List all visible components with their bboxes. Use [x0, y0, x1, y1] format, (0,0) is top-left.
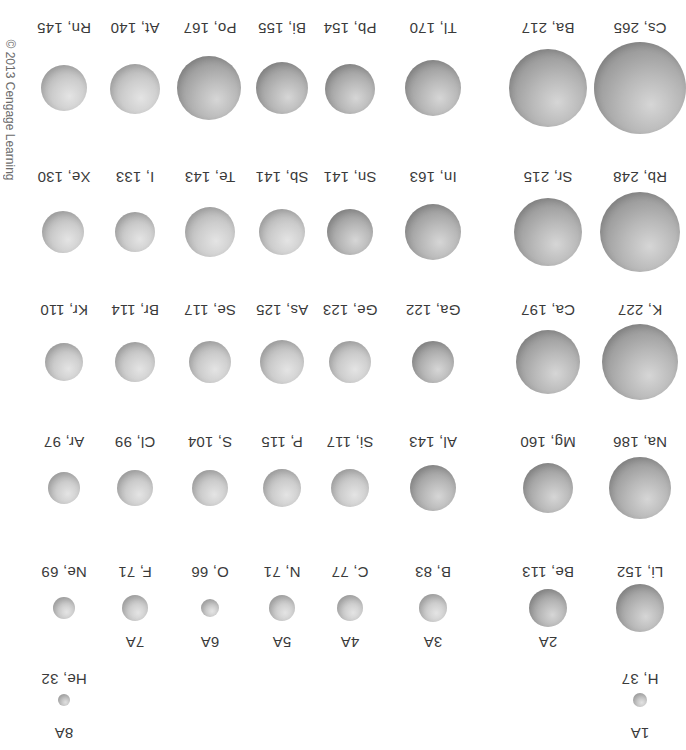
label-te: Te, 143 [185, 169, 236, 186]
sphere-ar [48, 472, 80, 504]
label-xe: Xe, 130 [37, 169, 90, 186]
label-k: K, 227 [618, 302, 663, 319]
label-mg: Mg, 160 [520, 434, 576, 451]
sphere-te [185, 207, 235, 257]
label-f: F, 71 [118, 564, 152, 581]
label-n: N, 71 [264, 564, 301, 581]
sphere-b [419, 594, 447, 622]
label-b: B, 83 [415, 564, 451, 581]
label-br: Br, 114 [111, 302, 159, 319]
sphere-rb [600, 192, 680, 272]
label-pb: Pb, 154 [323, 20, 376, 37]
label-ba: Ba, 217 [521, 20, 574, 37]
label-po: Po, 167 [183, 20, 236, 37]
sphere-si [331, 469, 369, 507]
sphere-se [189, 341, 231, 383]
label-o: O, 66 [191, 564, 229, 581]
sphere-cl [117, 470, 153, 506]
label-h: H, 37 [622, 671, 659, 688]
sphere-xe [42, 211, 84, 253]
label-c: C, 77 [332, 564, 369, 581]
sphere-k [602, 324, 678, 400]
label-kr: Kr, 110 [40, 302, 88, 319]
label-s: S, 104 [188, 434, 233, 451]
sphere-sr [514, 198, 582, 266]
label-rn: Rn, 145 [37, 20, 91, 37]
sphere-cs [594, 42, 686, 134]
sphere-o [201, 599, 219, 617]
label-ga: Ga, 122 [406, 302, 461, 319]
copyright-notice: © 2013 Cengage Learning [0, 0, 20, 220]
sphere-f [122, 595, 148, 621]
label-in: In, 163 [409, 169, 456, 186]
sphere-pb [325, 64, 375, 114]
sphere-h [633, 693, 647, 707]
sphere-be [529, 589, 567, 627]
label-bi: Bi, 155 [258, 20, 306, 37]
label-i: I, 133 [116, 169, 155, 186]
label-cs: Cs, 265 [613, 20, 666, 37]
sphere-tl [405, 60, 461, 116]
sphere-n [269, 595, 295, 621]
group-label-3a: 3A [424, 634, 442, 651]
sphere-al [410, 465, 456, 511]
sphere-rn [41, 65, 87, 111]
label-cl: Cl, 99 [115, 434, 155, 451]
sphere-na [609, 457, 671, 519]
sphere-s [192, 470, 228, 506]
sphere-c [337, 595, 363, 621]
label-at: At, 140 [111, 20, 160, 37]
sphere-bi [256, 62, 308, 114]
sphere-in [405, 204, 461, 260]
sphere-ne [53, 597, 75, 619]
label-rb: Rb, 248 [613, 169, 667, 186]
sphere-mg [523, 463, 573, 513]
copyright-text: © 2013 Cengage Learning [3, 40, 17, 181]
label-al: Al, 143 [409, 434, 457, 451]
group-label-6a: 6A [201, 634, 219, 651]
label-se: Se, 117 [184, 302, 236, 319]
sphere-i [115, 212, 155, 252]
sphere-ge [329, 341, 371, 383]
group-label-8a: 8A [55, 725, 73, 742]
label-ar: Ar, 97 [44, 434, 84, 451]
group-label-4a: 4A [341, 634, 359, 651]
group-label-1a: 1A [631, 725, 649, 742]
sphere-as [260, 340, 304, 384]
label-sr: Sr, 215 [524, 169, 573, 186]
label-si: Si, 117 [327, 434, 374, 451]
label-na: Na, 186 [613, 434, 667, 451]
group-label-2a: 2A [539, 634, 557, 651]
label-ca: Ca, 197 [521, 302, 575, 319]
sphere-sb [259, 209, 305, 255]
sphere-ga [412, 341, 454, 383]
sphere-he [58, 694, 70, 706]
group-label-5a: 5A [273, 634, 291, 651]
sphere-kr [45, 343, 83, 381]
sphere-li [616, 584, 664, 632]
sphere-sn [327, 209, 373, 255]
sphere-ba [509, 49, 587, 127]
label-p: P, 115 [261, 434, 303, 451]
label-li: Li, 152 [617, 564, 663, 581]
sphere-at [110, 64, 160, 114]
label-as: As, 125 [256, 302, 308, 319]
label-tl: Tl, 170 [409, 20, 456, 37]
label-ge: Ge, 123 [323, 302, 378, 319]
sphere-br [115, 342, 155, 382]
label-be: Be, 113 [522, 564, 574, 581]
label-ne: Ne, 69 [41, 564, 86, 581]
label-he: He, 32 [41, 671, 86, 688]
group-label-7a: 7A [126, 634, 144, 651]
label-sb: Sb, 141 [255, 169, 308, 186]
sphere-po [177, 56, 241, 120]
sphere-p [263, 469, 301, 507]
label-sn: Sn, 141 [323, 169, 376, 186]
sphere-ca [516, 330, 580, 394]
